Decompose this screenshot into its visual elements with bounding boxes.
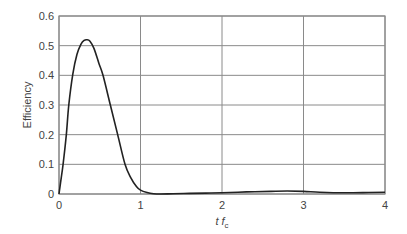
x-axis-label-subscript: c bbox=[225, 221, 229, 230]
y-tick-label: 0.4 bbox=[39, 69, 54, 81]
grid-lines bbox=[59, 16, 385, 194]
x-tick-label: 4 bbox=[382, 199, 388, 211]
x-tick-label: 0 bbox=[56, 199, 62, 211]
efficiency-chart: 00.10.20.30.40.50.6 01234 Efficiency t f… bbox=[0, 0, 407, 234]
y-axis-label: Efficiency bbox=[21, 81, 33, 128]
x-tick-label: 3 bbox=[300, 199, 306, 211]
y-axis-ticks: 00.10.20.30.40.50.6 bbox=[39, 10, 54, 200]
y-tick-label: 0.5 bbox=[39, 40, 54, 52]
y-tick-label: 0.6 bbox=[39, 10, 54, 22]
x-tick-label: 2 bbox=[219, 199, 225, 211]
x-axis-label: t fc bbox=[215, 215, 228, 230]
y-tick-label: 0.1 bbox=[39, 158, 54, 170]
y-tick-label: 0.2 bbox=[39, 129, 54, 141]
y-tick-label: 0.3 bbox=[39, 99, 54, 111]
x-axis-ticks: 01234 bbox=[56, 199, 388, 211]
x-tick-label: 1 bbox=[137, 199, 143, 211]
y-tick-label: 0 bbox=[48, 188, 54, 200]
